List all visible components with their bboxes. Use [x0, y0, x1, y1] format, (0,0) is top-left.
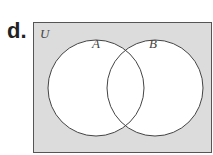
- set-a-label: A: [91, 36, 100, 51]
- set-b-label: B: [149, 36, 157, 51]
- universe-label: U: [40, 26, 51, 41]
- venn-diagram: U A B: [0, 0, 213, 155]
